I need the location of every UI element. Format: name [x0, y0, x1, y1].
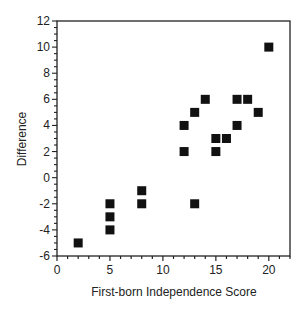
x-tick-label: 20	[262, 263, 276, 277]
y-tick-label: -4	[39, 223, 50, 237]
plot-frame	[57, 21, 290, 256]
data-point	[190, 199, 199, 208]
y-tick-label: 8	[43, 66, 50, 80]
x-tick-label: 15	[209, 263, 223, 277]
x-tick-label: 5	[107, 263, 114, 277]
y-tick-label: 0	[43, 171, 50, 185]
data-point	[222, 134, 231, 143]
data-point	[233, 121, 242, 130]
data-point	[233, 95, 242, 104]
y-tick-label: 6	[43, 92, 50, 106]
y-tick-label: -6	[39, 249, 50, 263]
scatter-chart: 05101520 -6-4-2024681012 First-born Inde…	[0, 0, 304, 314]
y-tick-label: 2	[43, 145, 50, 159]
plot-border	[57, 21, 290, 256]
x-tick-label: 0	[54, 263, 61, 277]
y-axis: -6-4-2024681012	[37, 14, 57, 263]
data-point	[74, 238, 83, 247]
data-point	[190, 108, 199, 117]
data-point	[211, 134, 220, 143]
data-point	[105, 212, 114, 221]
y-tick-label: 12	[37, 14, 51, 28]
data-point	[137, 186, 146, 195]
data-point	[105, 225, 114, 234]
data-point	[105, 199, 114, 208]
x-axis: 05101520	[54, 256, 290, 277]
data-point	[180, 121, 189, 130]
data-point	[264, 43, 273, 52]
data-point	[180, 147, 189, 156]
x-tick-label: 10	[156, 263, 170, 277]
y-tick-label: 4	[43, 118, 50, 132]
data-points	[74, 43, 274, 248]
y-axis-label: Difference	[15, 111, 29, 166]
data-point	[201, 95, 210, 104]
data-point	[137, 199, 146, 208]
data-point	[211, 147, 220, 156]
y-tick-label: -2	[39, 197, 50, 211]
data-point	[254, 108, 263, 117]
y-tick-label: 10	[37, 40, 51, 54]
x-axis-label: First-born Independence Score	[91, 285, 257, 299]
data-point	[243, 95, 252, 104]
